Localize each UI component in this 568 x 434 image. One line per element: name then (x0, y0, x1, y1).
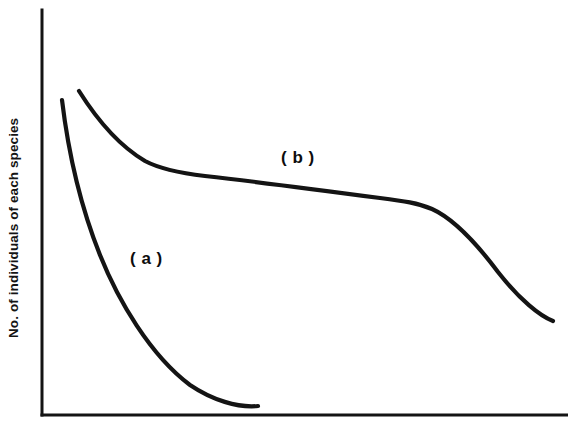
chart-canvas (0, 0, 568, 434)
curve-b-label: ( b ) (281, 148, 315, 168)
curve-b-path (79, 91, 553, 321)
axes-group (42, 10, 568, 415)
y-axis-label: No. of individuals of each species (0, 0, 26, 434)
curve-a-label: ( a ) (130, 249, 163, 269)
chart-figure: No. of individuals of each species ( a )… (0, 0, 568, 434)
